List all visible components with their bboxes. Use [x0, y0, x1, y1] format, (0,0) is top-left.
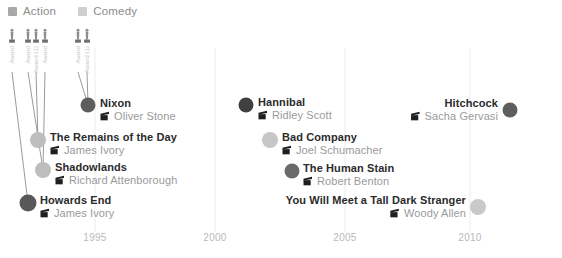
- clapperboard-icon: [40, 208, 50, 218]
- award-leader-line: [36, 72, 38, 140]
- clapperboard-icon: [303, 176, 313, 186]
- film-title: Shadowlands: [55, 161, 177, 174]
- x-axis-tick-label: 2000: [203, 232, 226, 243]
- data-point-label[interactable]: The Remains of the DayJames Ivory: [50, 131, 177, 157]
- oscar-trophy-icon: [8, 28, 16, 45]
- film-director: Robert Benton: [317, 175, 389, 188]
- clapperboard-icon-wrap: [100, 111, 110, 121]
- oscar-trophy-icon-wrap: [24, 28, 32, 45]
- film-title: Bad Company: [282, 131, 383, 144]
- oscar-trophy-icon: [32, 28, 40, 45]
- award-caption: Award: [25, 46, 31, 63]
- film-director-row: Sacha Gervasi: [411, 110, 498, 123]
- film-director-row: Robert Benton: [303, 175, 394, 188]
- film-title: Nixon: [100, 97, 176, 110]
- data-point-label[interactable]: You Will Meet a Tall Dark StrangerWoody …: [286, 194, 466, 220]
- oscar-trophy-icon: [41, 28, 49, 45]
- film-director-row: Woody Allen: [286, 207, 466, 220]
- oscar-trophy-icon-wrap: [41, 28, 49, 45]
- clapperboard-icon: [411, 111, 421, 121]
- oscar-trophy-icon: [24, 28, 32, 45]
- film-title: The Human Stain: [303, 162, 394, 175]
- oscar-trophy-icon-wrap: [74, 28, 82, 45]
- film-director: Sacha Gervasi: [425, 110, 498, 123]
- award-marker[interactable]: Award: [24, 28, 32, 63]
- clapperboard-icon-wrap: [411, 111, 421, 121]
- award-marker[interactable]: Award (1): [83, 28, 91, 73]
- clapperboard-icon-wrap: [40, 208, 50, 218]
- data-point-label[interactable]: NixonOliver Stone: [100, 97, 176, 123]
- clapperboard-icon-wrap: [390, 208, 400, 218]
- award-caption: Award: [75, 46, 81, 63]
- data-point-label[interactable]: ShadowlandsRichard Attenborough: [55, 161, 177, 187]
- oscar-trophy-icon-wrap: [83, 28, 91, 45]
- x-axis-tick-label: 2005: [333, 232, 356, 243]
- award-timeline-chart: Action Comedy AwardAwardAward (1)AwardAw…: [0, 0, 562, 258]
- film-director-row: Richard Attenborough: [55, 174, 177, 187]
- award-marker[interactable]: Award: [8, 28, 16, 63]
- data-point-label[interactable]: The Human StainRobert Benton: [303, 162, 394, 188]
- data-point-label[interactable]: Howards EndJames Ivory: [40, 194, 114, 220]
- data-point-dot[interactable]: [20, 195, 37, 212]
- award-marker[interactable]: Award: [74, 28, 82, 63]
- oscar-trophy-icon: [74, 28, 82, 45]
- data-point-label[interactable]: Bad CompanyJoel Schumacher: [282, 131, 383, 157]
- plot-area: AwardAwardAward (1)AwardAwardAward (1) N…: [0, 0, 562, 258]
- award-caption: Award: [9, 46, 15, 63]
- film-director-row: Oliver Stone: [100, 110, 176, 123]
- clapperboard-icon-wrap: [258, 110, 268, 120]
- award-leader-line: [43, 72, 45, 170]
- x-axis-tick-label: 1995: [83, 232, 106, 243]
- award-marker[interactable]: Award (1): [32, 28, 40, 73]
- film-title: You Will Meet a Tall Dark Stranger: [286, 194, 466, 207]
- award-leader-line: [28, 72, 43, 170]
- award-leader-line: [12, 72, 28, 203]
- data-point-label[interactable]: HitchcockSacha Gervasi: [411, 97, 498, 123]
- clapperboard-icon-wrap: [303, 176, 313, 186]
- film-director-row: Ridley Scott: [258, 109, 332, 122]
- clapperboard-icon: [390, 208, 400, 218]
- award-caption: Award (1): [84, 46, 90, 73]
- film-director: Ridley Scott: [272, 109, 332, 122]
- film-director: James Ivory: [54, 207, 114, 220]
- film-title: The Remains of the Day: [50, 131, 177, 144]
- oscar-trophy-icon-wrap: [8, 28, 16, 45]
- clapperboard-icon: [282, 145, 292, 155]
- clapperboard-icon: [100, 111, 110, 121]
- data-point-dot[interactable]: [30, 132, 46, 148]
- film-director: Woody Allen: [404, 207, 466, 220]
- data-point-dot[interactable]: [239, 98, 254, 113]
- clapperboard-icon-wrap: [50, 145, 60, 155]
- data-point-dot[interactable]: [81, 98, 96, 113]
- data-point-dot[interactable]: [503, 103, 518, 118]
- clapperboard-icon: [55, 175, 65, 185]
- film-director: Joel Schumacher: [296, 144, 383, 157]
- data-point-label[interactable]: HannibalRidley Scott: [258, 96, 332, 122]
- film-director: Oliver Stone: [114, 110, 176, 123]
- oscar-trophy-icon: [83, 28, 91, 45]
- film-director: Richard Attenborough: [69, 174, 177, 187]
- x-axis-tick-label: 2010: [458, 232, 481, 243]
- oscar-trophy-icon-wrap: [32, 28, 40, 45]
- clapperboard-icon-wrap: [282, 145, 292, 155]
- clapperboard-icon: [50, 145, 60, 155]
- film-title: Hitchcock: [411, 97, 498, 110]
- film-title: Hannibal: [258, 96, 332, 109]
- data-point-dot[interactable]: [285, 164, 300, 179]
- award-caption: Award (1): [33, 46, 39, 73]
- data-point-dot[interactable]: [470, 199, 486, 215]
- data-point-dot[interactable]: [262, 132, 278, 148]
- clapperboard-icon: [258, 110, 268, 120]
- film-director-row: James Ivory: [40, 207, 114, 220]
- award-caption: Award: [42, 46, 48, 63]
- clapperboard-icon-wrap: [55, 175, 65, 185]
- data-point-dot[interactable]: [35, 162, 51, 178]
- award-marker[interactable]: Award: [41, 28, 49, 63]
- film-title: Howards End: [40, 194, 114, 207]
- film-director: James Ivory: [64, 144, 124, 157]
- film-director-row: Joel Schumacher: [282, 144, 383, 157]
- film-director-row: James Ivory: [50, 144, 177, 157]
